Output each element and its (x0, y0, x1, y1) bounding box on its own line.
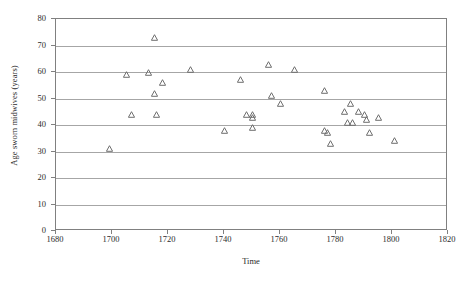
data-point-marker (327, 140, 334, 147)
data-point-marker (151, 90, 158, 97)
y-tick-label: 30 (6, 146, 46, 156)
gridline-horizontal (56, 125, 446, 126)
data-point-marker (361, 111, 368, 118)
data-point-marker (159, 79, 166, 86)
gridline-horizontal (56, 152, 446, 153)
data-point-marker (324, 129, 331, 136)
y-tick-label: 50 (6, 93, 46, 103)
x-tick-label: 1780 (313, 234, 357, 244)
data-point-marker (277, 100, 284, 107)
y-tick-label: 10 (6, 199, 46, 209)
y-tick-mark (51, 177, 55, 178)
gridline-horizontal (56, 72, 446, 73)
plot-area (55, 18, 447, 230)
y-tick-label: 60 (6, 66, 46, 76)
data-point-marker (321, 127, 328, 134)
data-point-marker (153, 111, 160, 118)
y-axis-title: Age sworn midwives (years) (7, 0, 21, 231)
gridline-horizontal (56, 46, 446, 47)
x-tick-label: 1760 (257, 234, 301, 244)
x-tick-label: 1820 (425, 234, 469, 244)
data-point-marker (341, 108, 348, 115)
y-tick-mark (51, 124, 55, 125)
y-tick-label: 80 (6, 13, 46, 23)
scatter-chart-figure: Age sworn midwives (years) Time 01020304… (0, 0, 475, 281)
data-point-marker (355, 108, 362, 115)
data-point-marker (128, 111, 135, 118)
x-tick-label: 1720 (145, 234, 189, 244)
data-point-marker (221, 127, 228, 134)
y-tick-mark (51, 71, 55, 72)
data-point-marker (321, 87, 328, 94)
y-tick-label: 70 (6, 40, 46, 50)
x-tick-label: 1700 (89, 234, 133, 244)
x-tick-label: 1800 (369, 234, 413, 244)
y-tick-label: 20 (6, 172, 46, 182)
x-tick-label: 1680 (33, 234, 77, 244)
x-tick-label: 1740 (201, 234, 245, 244)
data-point-marker (249, 111, 256, 118)
data-point-marker (375, 114, 382, 121)
data-point-marker (347, 100, 354, 107)
y-tick-mark (51, 98, 55, 99)
gridline-horizontal (56, 205, 446, 206)
data-point-marker (249, 114, 256, 121)
data-point-marker (366, 129, 373, 136)
y-tick-mark (51, 151, 55, 152)
data-point-marker (391, 137, 398, 144)
data-point-marker (237, 76, 244, 83)
y-tick-mark (51, 45, 55, 46)
data-point-marker (363, 116, 370, 123)
data-point-marker (151, 34, 158, 41)
gridline-horizontal (56, 178, 446, 179)
gridline-horizontal (56, 99, 446, 100)
y-tick-label: 40 (6, 119, 46, 129)
y-tick-mark (51, 18, 55, 19)
x-axis-title: Time (55, 256, 447, 267)
data-point-marker (265, 61, 272, 68)
y-tick-mark (51, 204, 55, 205)
data-point-marker (243, 111, 250, 118)
